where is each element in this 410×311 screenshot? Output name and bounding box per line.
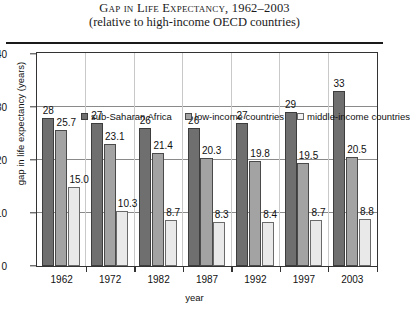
legend-label: middle-income countries: [307, 111, 410, 122]
bar-sub-saharan-africa-1997: [285, 112, 297, 266]
group-separator: [182, 53, 183, 266]
x-axis-tick-mark: [328, 267, 329, 272]
x-axis-tick-label: 1987: [196, 274, 218, 285]
bar-sub-saharan-africa-1987: [188, 128, 200, 266]
legend-label: low-income countries: [195, 111, 284, 122]
x-axis-tick-label: 1982: [147, 274, 169, 285]
x-axis-tick-mark: [134, 267, 135, 272]
legend-swatch-icon: [81, 113, 88, 120]
bar-sub-saharan-africa-1972: [91, 123, 103, 266]
x-axis-tick-label: 1972: [99, 274, 121, 285]
bar-low-income-countries-1962: [55, 130, 67, 266]
legend-swatch-icon: [185, 113, 192, 120]
bar-value-label: 20.3: [202, 145, 221, 156]
chart-title: Gap in Life Expectancy, 1962–2003 (relat…: [0, 0, 389, 29]
bar-middle-income-countries-2003: [359, 219, 371, 266]
bar-low-income-countries-2003: [346, 157, 358, 266]
x-axis-tick-label: 1997: [293, 274, 315, 285]
plot-area: 2825.715.02723.110.32621.48.72620.38.327…: [36, 52, 378, 267]
x-axis-tick-mark: [231, 267, 232, 272]
legend-item-middle-income-countries: middle-income countries: [297, 111, 410, 122]
bar-sub-saharan-africa-1992: [236, 123, 248, 266]
bar-value-label: 25.7: [57, 117, 76, 128]
legend-swatch-icon: [297, 113, 304, 120]
x-axis-tick-mark: [183, 267, 184, 272]
y-axis-tick-label: 20: [0, 154, 7, 165]
bar-middle-income-countries-1962: [68, 187, 80, 267]
bar-low-income-countries-1972: [104, 144, 116, 266]
chart-title-line-1: Gap in Life Expectancy, 1962–2003: [0, 0, 389, 15]
y-axis-tick-label: 10: [0, 207, 7, 218]
y-axis-tick-label: 0: [0, 260, 7, 271]
y-axis-tick-label: 40: [0, 48, 7, 59]
legend-label: sub-Saharan Africa: [91, 111, 172, 122]
x-axis-tick-label: 1962: [51, 274, 73, 285]
group-separator: [85, 53, 86, 266]
bar-sub-saharan-africa-1982: [139, 128, 151, 266]
bar-value-label: 28: [43, 105, 54, 116]
y-axis-tick-label: 30: [0, 101, 7, 112]
x-axis-tick-mark: [280, 267, 281, 272]
legend-item-low-income-countries: low-income countries: [185, 111, 284, 122]
bar-value-label: 21.4: [153, 140, 172, 151]
group-separator: [328, 53, 329, 266]
chart-legend: sub-Saharan Africa low-income countries …: [81, 111, 410, 122]
legend-item-sub-saharan-africa: sub-Saharan Africa: [81, 111, 172, 122]
bar-low-income-countries-1987: [200, 158, 212, 266]
group-separator: [231, 53, 232, 266]
group-separator: [134, 53, 135, 266]
bar-value-label: 20.5: [347, 144, 366, 155]
bar-middle-income-countries-1997: [310, 220, 322, 266]
x-axis-label: year: [0, 292, 389, 303]
x-axis-tick-mark: [377, 267, 378, 272]
x-axis-tick-label: 2003: [341, 274, 363, 285]
bar-value-label: 19.8: [250, 148, 269, 159]
plot-inner: 2825.715.02723.110.32621.48.72620.38.327…: [37, 53, 377, 266]
gridline: [37, 106, 377, 107]
bar-middle-income-countries-1992: [262, 222, 274, 267]
bar-value-label: 8.3: [215, 209, 229, 220]
bar-middle-income-countries-1982: [165, 220, 177, 266]
bar-middle-income-countries-1987: [213, 222, 225, 266]
title-divider: [6, 42, 383, 44]
bar-value-label: 10.3: [118, 198, 137, 209]
bar-value-label: 8.4: [263, 209, 277, 220]
bar-value-label: 15.0: [69, 174, 88, 185]
bar-value-label: 33: [333, 78, 344, 89]
bar-sub-saharan-africa-1962: [42, 118, 54, 266]
bar-value-label: 8.7: [166, 207, 180, 218]
bar-value-label: 8.7: [312, 207, 326, 218]
bar-low-income-countries-1982: [152, 153, 164, 266]
x-axis-tick-label: 1992: [244, 274, 266, 285]
x-axis-tick-mark: [86, 267, 87, 272]
group-separator: [279, 53, 280, 266]
bar-low-income-countries-1997: [297, 163, 309, 266]
bar-value-label: 23.1: [105, 131, 124, 142]
chart-title-line-2: (relative to high-income OECD countries): [0, 15, 389, 29]
bar-value-label: 29: [285, 99, 296, 110]
bar-middle-income-countries-1972: [116, 211, 128, 266]
bar-value-label: 8.8: [360, 206, 374, 217]
bar-value-label: 19.5: [299, 150, 318, 161]
bar-low-income-countries-1992: [249, 161, 261, 266]
y-axis-label: gap in life expectancy (years): [15, 34, 26, 214]
